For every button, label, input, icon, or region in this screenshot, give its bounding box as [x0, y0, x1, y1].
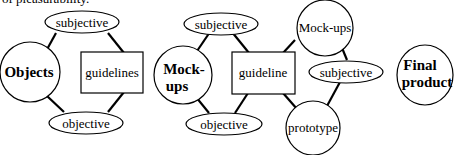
svg-text:subjective: subjective	[56, 15, 109, 30]
node-objective-middle: objective	[186, 113, 262, 135]
node-guidelines: guidelines	[81, 52, 143, 93]
node-guideline: guideline	[232, 52, 295, 94]
node-subjective-left: subjective	[45, 11, 119, 33]
svg-text:Objects: Objects	[4, 64, 53, 80]
node-final-product: Final product	[397, 45, 453, 105]
node-objects: Objects	[0, 42, 60, 102]
svg-text:objective: objective	[62, 116, 110, 131]
svg-text:Final: Final	[403, 57, 436, 73]
svg-text:prototype: prototype	[288, 120, 338, 135]
svg-text:Mock-ups: Mock-ups	[299, 20, 352, 35]
svg-text:objective: objective	[200, 117, 248, 132]
svg-text:Mock-: Mock-	[163, 61, 205, 77]
svg-text:guideline: guideline	[239, 65, 288, 80]
pleasurability-diagram: subjective Objects guidelines objective …	[0, 0, 455, 155]
svg-text:ups: ups	[166, 78, 189, 94]
node-prototype: prototype	[286, 101, 340, 155]
node-subjective-middle: subjective	[184, 13, 258, 35]
node-mockups-right: Mock-ups	[297, 0, 353, 56]
node-mockups-left: Mock- ups	[154, 46, 212, 104]
svg-text:subjective: subjective	[320, 65, 373, 80]
node-objective-left: objective	[49, 112, 123, 134]
svg-text:guidelines: guidelines	[85, 65, 138, 80]
svg-text:subjective: subjective	[195, 17, 248, 32]
svg-text:product: product	[402, 74, 453, 90]
node-subjective-right: subjective	[309, 61, 383, 83]
